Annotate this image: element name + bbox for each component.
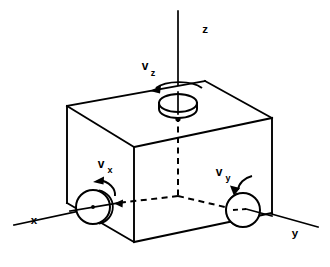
vz-label-subscript: z [151, 68, 156, 78]
vz-label-symbol: v [142, 59, 149, 73]
z-axis-label: z [202, 23, 208, 35]
disk-x-center-dot [91, 205, 95, 209]
vx-label-symbol: v [98, 157, 105, 171]
disk-z-group [159, 92, 197, 118]
rotation-diagram-figure: x y z v x v y v z [0, 0, 330, 267]
x-axis-label: x [31, 214, 38, 226]
vy-label-subscript: y [225, 173, 230, 183]
vy-label-symbol: v [216, 165, 223, 179]
rotation-diagram-svg: x y z v x v y v z [0, 0, 330, 267]
vx-label-subscript: x [107, 165, 112, 175]
y-axis-label: y [292, 227, 299, 239]
